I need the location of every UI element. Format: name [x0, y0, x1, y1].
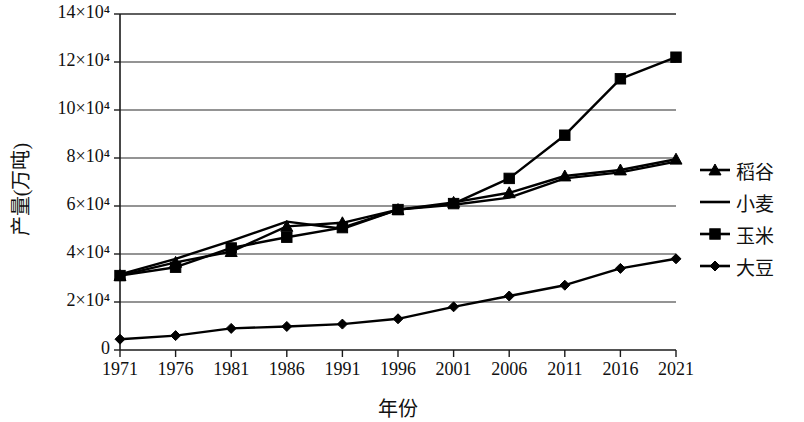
series-2-point-1	[170, 262, 180, 272]
series-3-point-9	[615, 263, 625, 273]
series-3-point-2	[226, 323, 236, 333]
series-2-point-8	[560, 130, 570, 140]
series-3-point-5	[393, 314, 403, 324]
series-2-point-4	[337, 222, 347, 232]
legend-marker-2	[710, 229, 720, 239]
series-2-point-6	[448, 198, 458, 208]
series-2-point-10	[671, 52, 681, 62]
series-2-point-9	[615, 74, 625, 84]
series-3	[115, 254, 681, 344]
series-2-point-2	[226, 243, 236, 253]
series-3-point-8	[560, 280, 570, 290]
series-2-point-5	[393, 204, 403, 214]
series-3-point-7	[504, 291, 514, 301]
series-2-point-7	[504, 173, 514, 183]
series-3-point-3	[282, 321, 292, 331]
series-3-point-6	[449, 302, 459, 312]
legend-marker-3	[710, 261, 720, 271]
series-3-point-10	[671, 254, 681, 264]
series-2-point-3	[282, 232, 292, 242]
series-2	[115, 52, 681, 281]
series-2-point-0	[115, 270, 125, 280]
series-line-3	[120, 259, 676, 339]
series-3-point-0	[115, 334, 125, 344]
series-3-point-1	[171, 331, 181, 341]
series-3-point-4	[337, 319, 347, 329]
series-0	[114, 153, 682, 280]
series-line-2	[120, 57, 676, 275]
